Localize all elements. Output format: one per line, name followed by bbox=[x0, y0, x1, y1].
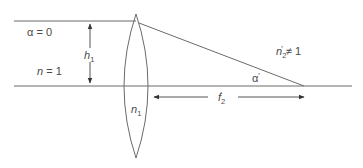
diagram-canvas bbox=[0, 0, 363, 168]
image-space-index-label: n2′ ≠ 1 bbox=[276, 45, 301, 60]
lens-diagram: α = 0 h1 n = 1 n1 n2′ ≠ 1 α′ f2′ bbox=[0, 0, 363, 168]
height-label: h1 bbox=[84, 50, 94, 64]
lens-index-label: n1 bbox=[131, 104, 141, 118]
focal-length-label: f2′ bbox=[218, 91, 222, 106]
object-space-index-label: n = 1 bbox=[37, 66, 62, 77]
alpha-incident-label: α = 0 bbox=[27, 27, 52, 38]
alpha-image-label: α′ bbox=[252, 72, 260, 84]
